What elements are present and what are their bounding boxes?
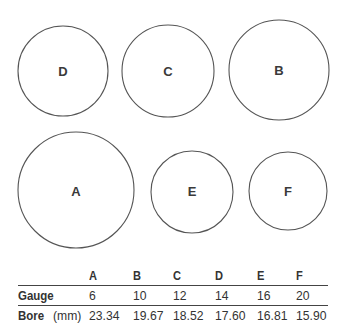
col-header-e: E (257, 266, 264, 285)
row-label-bore: Bore (mm) (18, 306, 84, 325)
svg-text:F: F (284, 184, 292, 199)
bore-a: 23.34 (89, 306, 119, 325)
svg-text:E: E (188, 184, 197, 199)
bore-f: 15.90 (296, 306, 326, 325)
circle-D: D (18, 26, 108, 116)
gauge-a: 6 (89, 286, 96, 305)
row-label-gauge: Gauge (18, 286, 60, 305)
gauge-f: 20 (296, 286, 310, 305)
bore-b: 19.67 (133, 306, 163, 325)
gauge-c: 12 (173, 286, 187, 305)
bore-d: 17.60 (215, 306, 245, 325)
gauge-d: 14 (215, 286, 229, 305)
circle-A: A (18, 132, 134, 248)
gauge-bore-table: A B C D E F Gauge 6 10 12 14 16 20 Bore … (18, 266, 328, 325)
circle-C: C (122, 25, 214, 117)
col-header-b: B (133, 266, 141, 285)
col-header-a: A (89, 266, 97, 285)
gauge-b: 10 (133, 286, 147, 305)
svg-text:B: B (274, 63, 283, 78)
circle-E: E (151, 151, 233, 233)
bore-e: 16.81 (257, 306, 287, 325)
col-header-c: C (173, 266, 181, 285)
col-header-f: F (296, 266, 303, 285)
svg-text:D: D (58, 64, 67, 79)
gauge-e: 16 (257, 286, 271, 305)
svg-text:A: A (71, 184, 81, 199)
col-header-d: D (215, 266, 223, 285)
bore-circles-diagram: D C B A E F (0, 0, 347, 262)
circle-F: F (249, 152, 327, 230)
svg-text:C: C (163, 64, 173, 79)
bore-c: 18.52 (173, 306, 203, 325)
circle-B: B (229, 20, 329, 120)
table-row-bore: Bore (mm) 23.34 19.67 18.52 17.60 16.81 … (18, 306, 328, 325)
table-row-gauge: Gauge 6 10 12 14 16 20 (18, 286, 328, 306)
table-header-row: A B C D E F (18, 266, 328, 286)
